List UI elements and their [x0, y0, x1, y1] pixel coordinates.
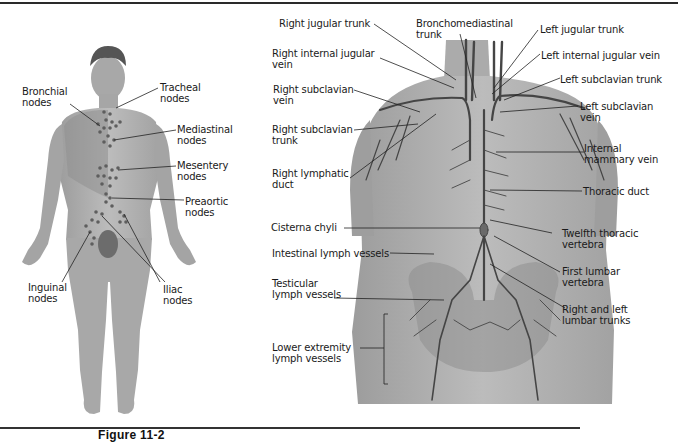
label-line: Left subclavian: [580, 101, 653, 112]
label-right-lymphatic-duct: Right lymphatic duct: [272, 168, 349, 190]
label-line: Intestinal lymph vessels: [272, 248, 389, 259]
label-line: Internal: [584, 143, 658, 154]
label-line: Thoracic duct: [583, 186, 649, 197]
label-left-subclavian-trunk: Left subclavian trunk: [560, 74, 662, 85]
label-line: mammary vein: [584, 154, 658, 165]
label-mesentery-nodes: Mesentery nodes: [177, 160, 228, 182]
label-line: nodes: [160, 93, 201, 104]
label-left-jugular-trunk: Left jugular trunk: [540, 24, 624, 35]
label-line: Left jugular trunk: [540, 24, 624, 35]
label-iliac-nodes: Iliac nodes: [163, 284, 192, 306]
label-inguinal-nodes: Inguinal nodes: [28, 282, 67, 304]
label-right-subclavian-vein: Right subclavian vein: [273, 84, 354, 106]
label-thoracic-duct: Thoracic duct: [583, 186, 649, 197]
label-line: Right subclavian: [272, 124, 353, 135]
label-line: Tracheal: [160, 82, 201, 93]
label-line: nodes: [177, 135, 233, 146]
label-right-and-left-lumbar-trunks: Right and left lumbar trunks: [562, 304, 630, 326]
label-internal-mammary-vein: Internal mammary vein: [584, 143, 658, 165]
label-line: duct: [272, 179, 349, 190]
label-line: vertebra: [562, 239, 638, 250]
label-line: Lower extremity: [272, 342, 351, 353]
label-twelfth-thoracic-vertebra: Twelfth thoracic vertebra: [562, 228, 638, 250]
label-line: Left internal jugular vein: [541, 50, 660, 61]
label-testicular-lymph-vessels: Testicular lymph vessels: [272, 278, 341, 300]
label-line: Iliac: [163, 284, 192, 295]
label-line: vein: [273, 95, 354, 106]
label-line: Right internal jugular: [272, 48, 375, 59]
label-line: nodes: [163, 295, 192, 306]
label-line: trunk: [272, 135, 353, 146]
label-line: Mediastinal: [177, 124, 233, 135]
label-line: Twelfth thoracic: [562, 228, 638, 239]
label-line: lumbar trunks: [562, 315, 630, 326]
label-line: Inguinal: [28, 282, 67, 293]
label-bronchomediastinal-trunk: Bronchomediastinal trunk: [416, 18, 513, 40]
label-line: Bronchomediastinal: [416, 18, 513, 29]
figure-caption: Figure 11-2: [98, 428, 165, 442]
label-line: Mesentery: [177, 160, 228, 171]
label-line: lymph vessels: [272, 289, 341, 300]
label-tracheal-nodes: Tracheal nodes: [160, 82, 201, 104]
label-line: nodes: [185, 207, 228, 218]
label-left-subclavian-vein: Left subclavian vein: [580, 101, 653, 123]
label-left-internal-jugular-vein: Left internal jugular vein: [541, 50, 660, 61]
label-line: Right subclavian: [273, 84, 354, 95]
label-preaortic-nodes: Preaortic nodes: [185, 196, 228, 218]
label-lower-extremity-lymph-vessels: Lower extremity lymph vessels: [272, 342, 351, 364]
label-line: nodes: [28, 293, 67, 304]
label-cisterna-chyli: Cisterna chyli: [271, 222, 337, 233]
label-line: lymph vessels: [272, 353, 351, 364]
label-bronchial-nodes: Bronchial nodes: [22, 86, 67, 108]
label-line: Testicular: [272, 278, 341, 289]
label-line: Left subclavian trunk: [560, 74, 662, 85]
label-line: Cisterna chyli: [271, 222, 337, 233]
label-line: nodes: [177, 171, 228, 182]
label-right-subclavian-trunk: Right subclavian trunk: [272, 124, 353, 146]
label-line: vein: [272, 59, 375, 70]
label-line: vein: [580, 112, 653, 123]
label-line: Right and left: [562, 304, 630, 315]
label-line: Bronchial: [22, 86, 67, 97]
label-mediastinal-nodes: Mediastinal nodes: [177, 124, 233, 146]
label-intestinal-lymph-vessels: Intestinal lymph vessels: [272, 248, 389, 259]
label-right-jugular-trunk: Right jugular trunk: [279, 18, 370, 29]
label-line: Preaortic: [185, 196, 228, 207]
label-line: Right lymphatic: [272, 168, 349, 179]
label-line: Right jugular trunk: [279, 18, 370, 29]
label-line: nodes: [22, 97, 67, 108]
label-right-internal-jugular-vein: Right internal jugular vein: [272, 48, 375, 70]
label-first-lumbar-vertebra: First lumbar vertebra: [562, 266, 620, 288]
bottom-rule: [0, 427, 580, 429]
label-line: First lumbar: [562, 266, 620, 277]
label-line: vertebra: [562, 277, 620, 288]
label-line: trunk: [416, 29, 513, 40]
